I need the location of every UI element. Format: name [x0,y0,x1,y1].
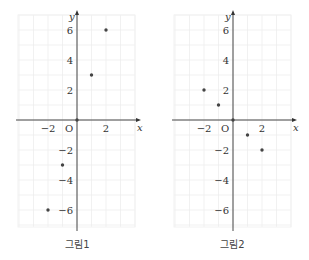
graph-2-plot: xyO−22642−2−4−6 [155,0,309,235]
y-tick-label: 6 [67,25,73,36]
data-point [90,73,93,76]
data-point [260,148,263,151]
y-tick-label: 2 [223,85,229,96]
data-point [217,103,220,106]
y-tick-label: −6 [214,205,229,216]
graph-1-caption: 그림1 [0,236,155,251]
graph-2-caption: 그림2 [155,236,309,251]
origin-label: O [65,123,73,134]
y-tick-label: 4 [223,55,229,66]
y-axis-label: y [68,11,75,22]
x-tick-label: −2 [41,123,56,134]
data-point [246,133,249,136]
x-axis-label: x [293,122,299,133]
y-tick-label: 6 [223,25,229,36]
y-tick-label: −2 [214,145,229,156]
data-point [61,163,64,166]
y-tick-label: −4 [58,175,73,186]
x-tick-label: 2 [259,123,265,134]
y-tick-label: −4 [214,175,229,186]
y-tick-label: −2 [58,145,73,156]
data-point [231,118,234,121]
data-point [202,88,205,91]
data-point [75,118,78,121]
x-axis-label: x [137,122,143,133]
x-tick-label: −2 [197,123,212,134]
graph-1-plot: xyO−22642−2−4−6 [0,0,155,235]
y-tick-label: −6 [58,205,73,216]
data-point [46,208,49,211]
x-tick-label: 2 [103,123,109,134]
graph-1-panel: xyO−22642−2−4−6 그림1 [0,0,155,260]
origin-label: O [221,123,229,134]
y-axis-label: y [224,11,231,22]
data-point [104,28,107,31]
graph-2-panel: xyO−22642−2−4−6 그림2 [155,0,309,260]
y-tick-label: 4 [67,55,73,66]
y-axis-arrow-icon [75,10,79,15]
y-axis-arrow-icon [231,10,235,15]
y-tick-label: 2 [67,85,73,96]
